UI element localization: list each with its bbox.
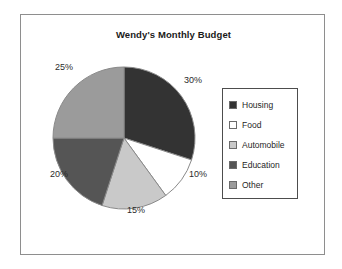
legend-swatch-housing [229,101,237,109]
pie-chart-svg [43,57,205,219]
slice-label-automobile: 15% [127,205,145,215]
pie-slice-group [53,67,195,209]
chart-legend: HousingFoodAutomobileEducationOther [222,88,298,199]
legend-label: Food [242,121,261,130]
pie-slice-other [53,67,124,138]
legend-label: Education [242,161,280,170]
legend-swatch-other [229,181,237,189]
chart-frame: Wendy's Monthly Budget 30% 10% 15% 20% 2… [20,14,325,255]
slice-label-education: 20% [50,169,68,179]
legend-item-food: Food [229,115,297,135]
slice-label-other: 25% [55,62,73,72]
legend-label: Other [242,181,263,190]
slice-label-food: 10% [189,169,207,179]
legend-label: Housing [242,101,273,110]
legend-item-other: Other [229,175,297,195]
legend-item-automobile: Automobile [229,135,297,155]
legend-swatch-food [229,121,237,129]
legend-swatch-education [229,161,237,169]
legend-swatch-automobile [229,141,237,149]
legend-item-education: Education [229,155,297,175]
slice-label-housing: 30% [184,75,202,85]
legend-item-housing: Housing [229,95,297,115]
legend-label: Automobile [242,141,285,150]
